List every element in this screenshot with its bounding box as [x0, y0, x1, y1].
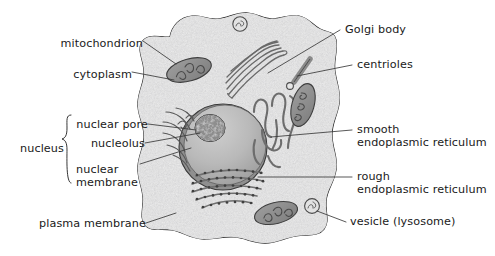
label-mitochondrion: mitochondrion [0, 38, 146, 50]
label-golgi-body: Golgi body [345, 24, 406, 36]
diagram-stage: mitochondrion cytoplasm nuclear pore nuc… [0, 0, 495, 256]
label-plasma-membrane: plasma membrane [0, 218, 149, 230]
label-centrioles: centrioles [357, 59, 413, 71]
vesicle-top [233, 17, 247, 31]
label-rough-er-line1: rough [357, 171, 390, 183]
label-smooth-er-line2: endoplasmic reticulum [357, 137, 487, 149]
label-nuclear-membrane-line2: membrane [76, 177, 138, 189]
label-rough-er-line2: endoplasmic reticulum [357, 184, 487, 196]
nucleolus-texture [195, 115, 225, 142]
cell-diagram-root: mitochondrion cytoplasm nuclear pore nuc… [0, 0, 495, 256]
label-nuclear-pore: nuclear pore [0, 119, 151, 131]
label-vesicle: vesicle (lysosome) [350, 216, 456, 228]
centriole-circle [287, 83, 294, 90]
label-cytoplasm: cytoplasm [0, 69, 135, 81]
label-nuclear-membrane-line1: nuclear [76, 164, 118, 176]
label-smooth-er-line1: smooth [357, 124, 400, 136]
label-nucleus: nucleus [20, 143, 64, 155]
